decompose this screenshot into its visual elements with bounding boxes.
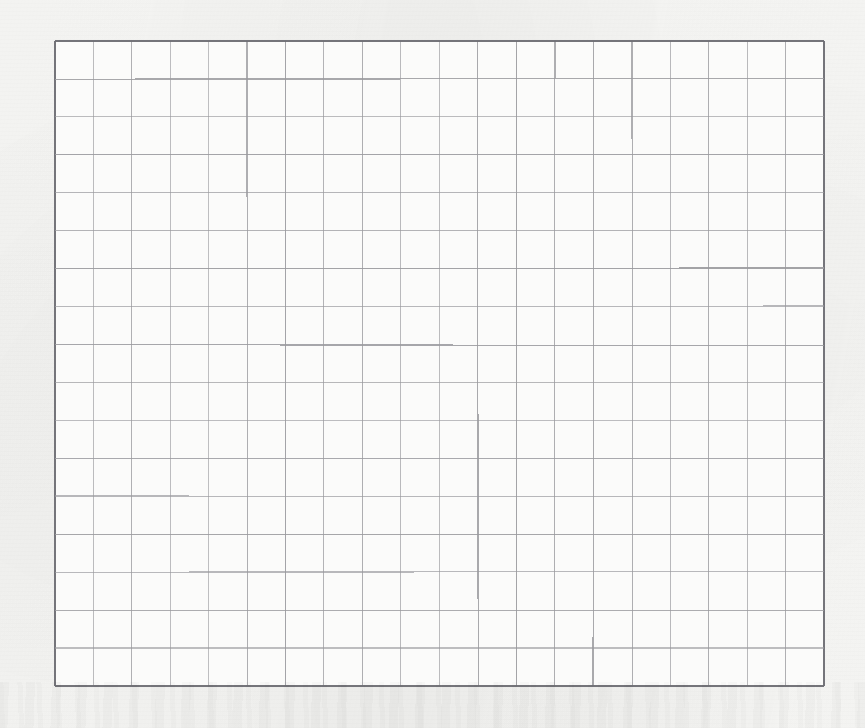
graph-paper-grid	[52, 38, 827, 689]
scanned-page	[0, 0, 865, 728]
grid-svg	[52, 38, 827, 689]
